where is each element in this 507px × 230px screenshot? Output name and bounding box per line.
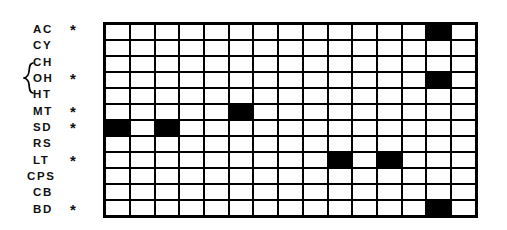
matrix-cell-empty	[230, 41, 253, 55]
matrix-cell-empty	[205, 105, 228, 119]
matrix-cell-empty	[205, 185, 228, 199]
matrix-cell-empty	[403, 41, 426, 55]
matrix-cell-empty	[427, 41, 450, 55]
row-label-cb: CB	[0, 185, 100, 200]
matrix-cell-empty	[180, 201, 203, 215]
matrix-cell-empty	[353, 153, 376, 167]
matrix-cell-empty	[205, 169, 228, 183]
matrix-cell-empty	[279, 105, 302, 119]
row-label-text: SD	[33, 122, 52, 134]
matrix-cell-empty	[378, 201, 401, 215]
matrix-cell-empty	[329, 169, 352, 183]
matrix-cell-empty	[279, 89, 302, 103]
matrix-cell-empty	[329, 73, 352, 87]
matrix-cell-empty	[304, 169, 327, 183]
matrix-cell-empty	[131, 41, 154, 55]
row-label-sd: SD*	[0, 120, 100, 135]
matrix-cell-empty	[106, 41, 129, 55]
matrix-cell-empty	[230, 201, 253, 215]
matrix-cell-empty	[427, 121, 450, 135]
matrix-cell-empty	[230, 25, 253, 39]
matrix-cell-empty	[230, 73, 253, 87]
matrix-cell-empty	[106, 105, 129, 119]
row-label-ch: CH	[0, 55, 100, 70]
matrix-cell-empty	[279, 137, 302, 151]
matrix-cell-empty	[329, 201, 352, 215]
matrix-cell-empty	[304, 121, 327, 135]
row-marker-asterisk: *	[70, 104, 76, 119]
matrix-cell-empty	[329, 41, 352, 55]
row-label-text: CB	[33, 187, 53, 199]
row-label-text: CY	[33, 40, 52, 52]
matrix-cell-empty	[427, 57, 450, 71]
matrix-cell-empty	[427, 153, 450, 167]
matrix-cell-empty	[329, 25, 352, 39]
matrix-cell-empty	[131, 73, 154, 87]
matrix-cell-empty	[254, 73, 277, 87]
matrix-cell-empty	[254, 153, 277, 167]
matrix-cell-empty	[378, 137, 401, 151]
row-label-column: AC*CYCHOH*HTMT*SD*RSLT*CPSCBBD*	[0, 22, 100, 218]
matrix-cell-empty	[205, 41, 228, 55]
matrix-cell-empty	[452, 185, 475, 199]
matrix-cell-empty	[403, 73, 426, 87]
matrix-cell-empty	[106, 169, 129, 183]
matrix-cell-empty	[131, 201, 154, 215]
matrix-cell-empty	[254, 137, 277, 151]
matrix-cell-empty	[106, 153, 129, 167]
row-label-text: HT	[33, 89, 52, 101]
matrix-cell-empty	[452, 121, 475, 135]
matrix-cell-empty	[156, 185, 179, 199]
matrix-cell-empty	[452, 137, 475, 151]
matrix-cell-empty	[279, 73, 302, 87]
presence-absence-grid	[103, 22, 478, 218]
matrix-cell-empty	[180, 105, 203, 119]
matrix-cell-empty	[156, 57, 179, 71]
matrix-cell-empty	[452, 153, 475, 167]
matrix-cell-empty	[329, 89, 352, 103]
matrix-cell-empty	[254, 185, 277, 199]
brace-icon	[23, 62, 34, 94]
matrix-cell-empty	[353, 41, 376, 55]
matrix-cell-empty	[131, 137, 154, 151]
matrix-cell-empty	[279, 57, 302, 71]
matrix-cell-empty	[427, 169, 450, 183]
matrix-cell-empty	[403, 121, 426, 135]
row-label-rs: RS	[0, 136, 100, 151]
matrix-cell-empty	[131, 169, 154, 183]
row-marker-asterisk: *	[70, 120, 76, 135]
matrix-cell-empty	[131, 57, 154, 71]
matrix-cell-filled	[156, 121, 179, 135]
matrix-cell-empty	[353, 105, 376, 119]
matrix-cell-empty	[156, 41, 179, 55]
matrix-cell-empty	[452, 41, 475, 55]
matrix-cell-empty	[403, 201, 426, 215]
matrix-cell-empty	[205, 201, 228, 215]
matrix-cell-empty	[131, 185, 154, 199]
matrix-cell-filled	[106, 121, 129, 135]
row-marker-asterisk: *	[70, 153, 76, 168]
matrix-cell-empty	[353, 57, 376, 71]
matrix-cell-empty	[230, 185, 253, 199]
matrix-cell-empty	[452, 201, 475, 215]
row-label-bd: BD*	[0, 202, 100, 217]
matrix-cell-empty	[403, 137, 426, 151]
matrix-cell-empty	[378, 89, 401, 103]
matrix-cell-empty	[106, 57, 129, 71]
matrix-cell-empty	[378, 105, 401, 119]
matrix-cell-empty	[378, 25, 401, 39]
matrix-cell-empty	[205, 57, 228, 71]
row-label-text: CH	[33, 57, 53, 69]
matrix-cell-empty	[131, 105, 154, 119]
matrix-cell-empty	[353, 185, 376, 199]
matrix-figure: AC*CYCHOH*HTMT*SD*RSLT*CPSCBBD*	[0, 0, 507, 230]
matrix-cell-empty	[403, 153, 426, 167]
matrix-cell-empty	[156, 105, 179, 119]
matrix-cell-empty	[180, 137, 203, 151]
matrix-cell-empty	[230, 169, 253, 183]
matrix-cell-empty	[304, 41, 327, 55]
matrix-cell-empty	[156, 73, 179, 87]
matrix-cell-empty	[254, 201, 277, 215]
matrix-cell-empty	[106, 201, 129, 215]
matrix-cell-empty	[452, 89, 475, 103]
